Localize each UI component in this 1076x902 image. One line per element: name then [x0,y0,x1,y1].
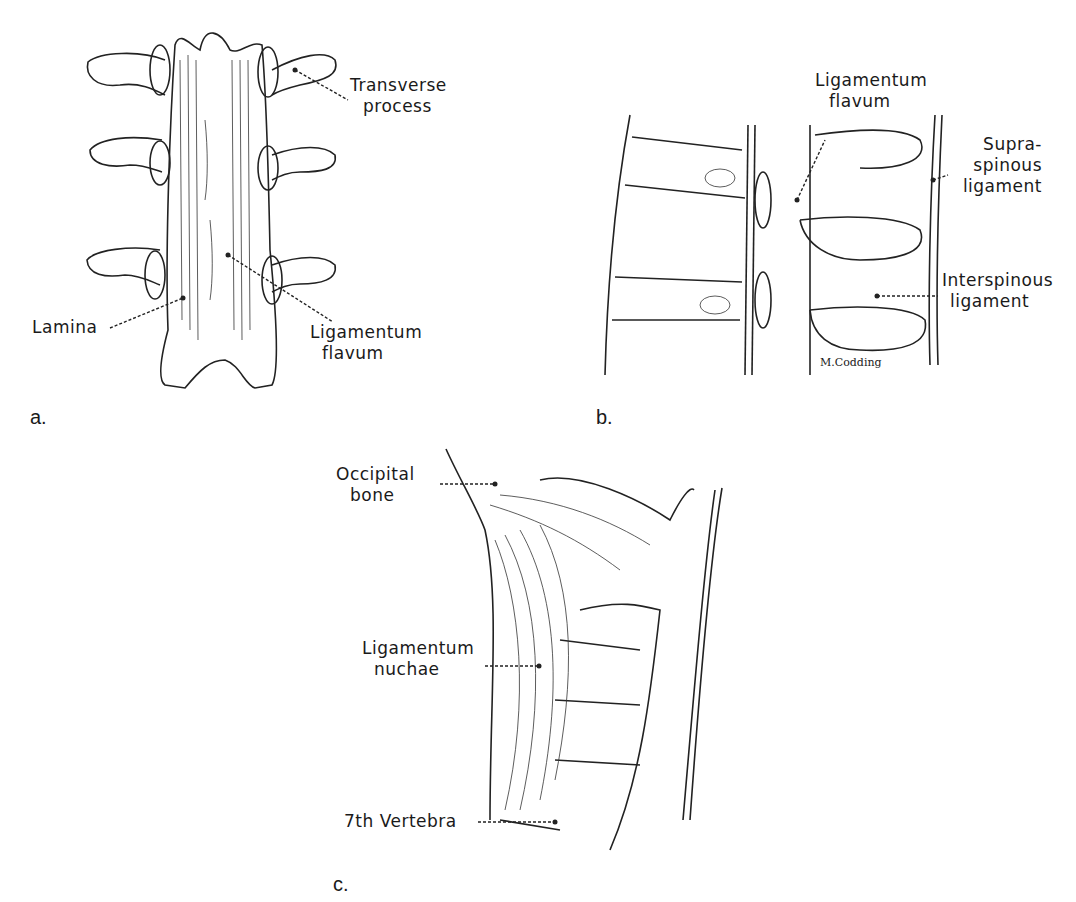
label-line: Interspinous [942,270,1053,291]
label-line: process [350,96,447,117]
label-line: Lamina [32,317,97,338]
label-line: Ligamentum [362,638,474,659]
label-ligamentum-flavum-a: Ligamentum flavum [310,322,422,364]
label-seventh-vertebra: 7th Vertebra [344,811,457,832]
label-ligamentum-nuchae: Ligamentum nuchae [362,638,474,680]
label-line: flavum [310,343,422,364]
label-line: Ligamentum [815,70,927,91]
label-line: spinous [950,155,1042,176]
panel-a-drawing [87,33,348,388]
label-line: Ligamentum [310,322,422,343]
illustration-canvas [0,0,1076,902]
label-occipital-bone: Occipital bone [336,464,415,506]
label-transverse-process: Transverse process [350,75,447,117]
panel-letter-c: c. [333,873,349,896]
label-line: ligament [942,291,1053,312]
label-line: nuchae [362,659,474,680]
label-supraspinous-ligament: Supra- spinous ligament [950,134,1042,197]
label-line: 7th Vertebra [344,811,457,832]
panel-c-drawing [440,449,722,850]
label-line: Supra- [950,134,1042,155]
label-interspinous-ligament: Interspinous ligament [942,270,1053,312]
label-lamina: Lamina [32,317,97,338]
panel-b-drawing [605,115,948,375]
label-line: bone [336,485,415,506]
artist-signature: M.Codding [820,356,882,369]
label-ligamentum-flavum-b: Ligamentum flavum [815,70,927,112]
label-line: Occipital [336,464,415,485]
panel-letter-b: b. [596,406,613,429]
panel-letter-a: a. [30,406,47,429]
label-line: ligament [950,176,1042,197]
label-line: flavum [815,91,927,112]
label-line: Transverse [350,75,447,96]
